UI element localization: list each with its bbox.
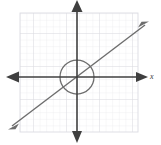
y-axis-arrow-down (72, 131, 82, 143)
x-axis-arrow-left (6, 72, 19, 83)
graph-figure: x (0, 0, 161, 145)
x-axis-label: x (150, 73, 154, 81)
major-gridlines (20, 13, 138, 132)
coordinate-plane-svg (0, 0, 161, 145)
y-axis-arrow-up (72, 0, 83, 12)
x-axis-arrow-right (136, 72, 148, 82)
grid-group (20, 13, 138, 132)
